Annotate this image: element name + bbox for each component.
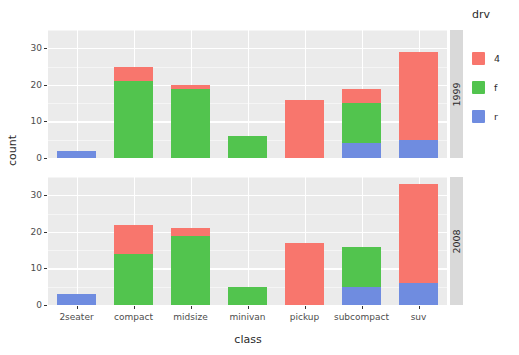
x-tick-label-subcompact: subcompact (334, 312, 389, 322)
y-tick-label: 20 (12, 80, 42, 90)
y-tick-mark (44, 232, 47, 233)
y-tick-label: 10 (12, 263, 42, 273)
facet-strip-label: 2008 (451, 229, 462, 253)
legend-item-f[interactable]: f (472, 81, 497, 94)
y-tick-label: 30 (12, 43, 42, 53)
x-tick-mark (248, 306, 249, 309)
bar-segment-r (342, 143, 382, 158)
bar-segment-f (228, 287, 268, 305)
bar-subcompact (342, 89, 382, 158)
y-tick-label: 20 (12, 227, 42, 237)
bar-subcompact (342, 247, 382, 306)
bar-segment-f (171, 236, 211, 305)
bar-segment-r (399, 283, 439, 305)
y-tick-label: 0 (12, 153, 42, 163)
bar-segment-4 (114, 225, 154, 254)
x-tick-mark (134, 306, 135, 309)
y-tick-label: 0 (12, 300, 42, 310)
bar-segment-4 (399, 184, 439, 283)
legend-title: drv (472, 8, 490, 21)
bar-compact (114, 67, 154, 158)
bar-minivan (228, 287, 268, 305)
x-tick-label-2seater: 2seater (59, 312, 93, 322)
plot-area (48, 30, 447, 158)
y-tick-mark (44, 268, 47, 269)
gridline-vertical (77, 30, 78, 158)
bar-compact (114, 225, 154, 305)
bar-segment-4 (285, 243, 325, 305)
x-tick-label-compact: compact (114, 312, 153, 322)
x-tick-mark (77, 306, 78, 309)
x-tick-mark (419, 306, 420, 309)
legend-swatch-icon (472, 81, 485, 94)
x-tick-mark (191, 306, 192, 309)
bar-minivan (228, 136, 268, 158)
legend-swatch-icon (472, 52, 485, 65)
gridline-major (48, 158, 447, 159)
bar-segment-r (57, 294, 97, 305)
y-tick-mark (44, 85, 47, 86)
bar-midsize (171, 85, 211, 158)
bar-2seater (57, 294, 97, 305)
bar-pickup (285, 100, 325, 159)
bar-segment-f (342, 103, 382, 143)
plot-area (48, 177, 447, 305)
bar-2seater (57, 151, 97, 158)
legend-swatch-icon (472, 110, 485, 123)
bar-segment-f (342, 247, 382, 287)
y-tick-mark (44, 48, 47, 49)
facet-strip-2008: 2008 (450, 177, 463, 305)
chart-root: count 01020300102030 1999 2008 2seaterco… (0, 0, 519, 355)
y-tick-mark (44, 305, 47, 306)
legend-item-label: f (494, 82, 497, 93)
bar-segment-r (399, 140, 439, 158)
legend-item-r[interactable]: r (472, 110, 498, 123)
legend-item-label: r (494, 111, 498, 122)
bar-segment-r (57, 151, 97, 158)
x-tick-label-pickup: pickup (290, 312, 320, 322)
bar-segment-4 (171, 228, 211, 235)
x-tick-mark (362, 306, 363, 309)
legend-item-4[interactable]: 4 (472, 52, 500, 65)
bar-midsize (171, 228, 211, 305)
facet-panel-1999 (48, 30, 447, 158)
x-tick-label-suv: suv (411, 312, 427, 322)
y-tick-mark (44, 121, 47, 122)
bar-segment-f (114, 254, 154, 305)
bar-suv (399, 184, 439, 305)
y-tick-label: 30 (12, 190, 42, 200)
legend-item-label: 4 (494, 53, 500, 64)
y-tick-label: 10 (12, 116, 42, 126)
y-tick-mark (44, 195, 47, 196)
bar-suv (399, 52, 439, 158)
bar-pickup (285, 243, 325, 305)
bar-segment-f (171, 89, 211, 158)
bar-segment-4 (399, 52, 439, 140)
x-tick-label-minivan: minivan (229, 312, 265, 322)
bar-segment-4 (285, 100, 325, 159)
facet-strip-1999: 1999 (450, 30, 463, 158)
x-axis-title: class (48, 333, 448, 346)
bar-segment-4 (171, 85, 211, 89)
x-tick-mark (305, 306, 306, 309)
bar-segment-r (342, 287, 382, 305)
bar-segment-f (114, 81, 154, 158)
facet-strip-label: 1999 (451, 82, 462, 106)
legend: drv 4fr (470, 0, 519, 160)
bar-segment-4 (114, 67, 154, 82)
bar-segment-f (228, 136, 268, 158)
facet-panel-2008 (48, 177, 447, 305)
x-tick-label-midsize: midsize (173, 312, 207, 322)
bar-segment-4 (342, 89, 382, 104)
y-tick-mark (44, 158, 47, 159)
gridline-vertical (77, 177, 78, 305)
